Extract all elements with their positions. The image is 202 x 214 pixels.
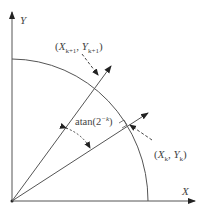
vector-next [12, 66, 111, 201]
pointer-next [82, 54, 98, 75]
label-next-point: (Xk+1, Yk+1) [55, 40, 103, 55]
angle-arc-arrow [66, 128, 90, 148]
x-axis-label: X [181, 185, 190, 197]
circle-arc [12, 59, 148, 201]
label-current-point: (Xk, Yk) [154, 148, 187, 163]
cordic-diagram: Y X (Xk+1, Yk+1) (Xk, Yk) atan(2−k) [0, 0, 202, 214]
angle-label: atan(2−k) [75, 115, 113, 128]
y-axis-label: Y [20, 14, 28, 26]
